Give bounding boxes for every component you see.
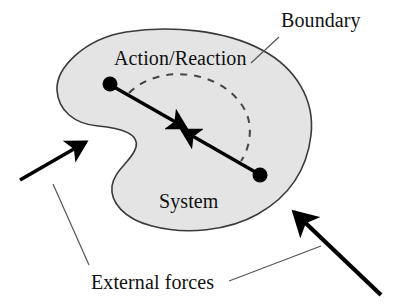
external-right-leader-line [229,246,321,281]
action-point-dot [103,77,118,92]
figure-root: Boundary Action/Reaction System External… [0,0,399,305]
system-label: System [159,191,219,211]
action-reaction-label: Action/Reaction [114,48,247,68]
reaction-point-dot [253,168,268,183]
external-forces-label: External forces [91,272,214,292]
external-force-arrow-right [294,212,381,295]
external-left-leader-line [53,184,89,265]
external-force-arrow-left [20,142,86,180]
boundary-label: Boundary [281,10,361,30]
diagram-svg [0,0,399,305]
